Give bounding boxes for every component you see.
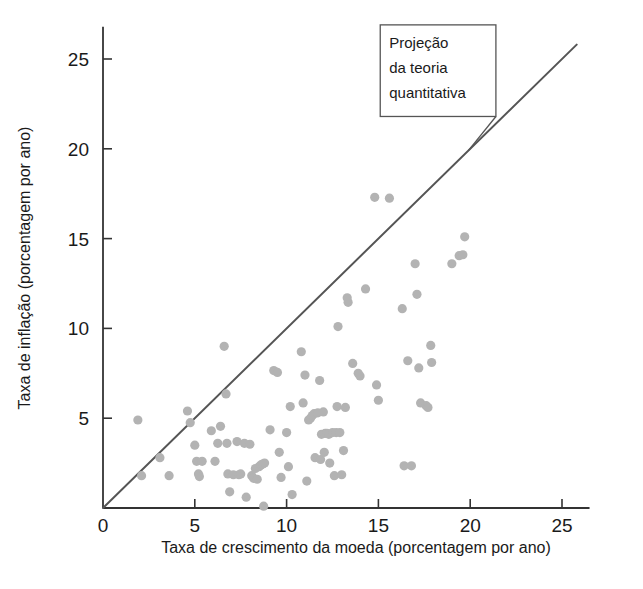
data-point <box>253 475 262 484</box>
x-tick-label: 10 <box>276 515 297 536</box>
data-point <box>207 426 216 435</box>
data-point <box>260 459 269 468</box>
data-point <box>344 298 353 307</box>
data-point <box>198 457 207 466</box>
y-tick-label: 5 <box>78 408 89 429</box>
data-point <box>273 368 282 377</box>
data-point <box>133 415 142 424</box>
data-point <box>458 250 467 259</box>
data-point <box>282 428 291 437</box>
data-point <box>183 406 192 415</box>
y-axis-title: Taxa de inflação (porcentagem por ano) <box>16 127 33 410</box>
data-point <box>275 448 284 457</box>
data-point <box>325 459 334 468</box>
quantity-theory-reference-line <box>103 45 577 508</box>
annotation-line: da teoria <box>389 59 448 76</box>
data-point <box>385 194 394 203</box>
data-point <box>339 446 348 455</box>
data-point <box>165 471 174 480</box>
data-point <box>222 439 231 448</box>
data-point <box>460 232 469 241</box>
y-tick-label: 15 <box>68 229 89 250</box>
data-point <box>221 389 230 398</box>
data-point <box>407 461 416 470</box>
data-point <box>332 402 341 411</box>
data-point <box>286 402 295 411</box>
data-point <box>302 476 311 485</box>
data-point <box>284 462 293 471</box>
annotation-callout: Projeçãoda teoriaquantitativa <box>380 25 496 151</box>
data-point <box>361 284 370 293</box>
data-point <box>341 403 350 412</box>
data-point <box>297 347 306 356</box>
data-point <box>447 259 456 268</box>
y-tick-label: 20 <box>68 139 89 160</box>
x-axis-title: Taxa de crescimento da moeda (porcentage… <box>161 539 551 556</box>
data-point <box>225 487 234 496</box>
x-tick-label: 5 <box>190 515 201 536</box>
data-point <box>137 471 146 480</box>
x-tick-label: 0 <box>98 515 109 536</box>
data-point <box>245 440 254 449</box>
data-point <box>155 453 164 462</box>
data-point <box>216 422 225 431</box>
data-point <box>236 469 245 478</box>
data-point <box>288 490 297 499</box>
data-point <box>213 439 222 448</box>
data-point <box>423 403 432 412</box>
annotation-line: quantitativa <box>389 84 466 101</box>
data-point <box>412 290 421 299</box>
data-point <box>348 359 357 368</box>
data-point <box>242 493 251 502</box>
data-point <box>411 259 420 268</box>
data-point <box>220 342 229 351</box>
reference-line-45deg <box>103 45 577 508</box>
data-point <box>335 428 344 437</box>
scatter-plot: 0510152025510152025 Projeçãoda teoriaqua… <box>0 0 643 589</box>
data-point <box>374 396 383 405</box>
data-point <box>195 472 204 481</box>
data-point <box>427 358 436 367</box>
data-point <box>370 193 379 202</box>
x-tick-label: 20 <box>460 515 481 536</box>
data-point <box>276 473 285 482</box>
data-point <box>265 425 274 434</box>
data-point <box>355 371 364 380</box>
data-point <box>403 356 412 365</box>
data-point <box>259 502 268 511</box>
data-point <box>210 457 219 466</box>
annotation-line: Projeção <box>389 34 448 51</box>
data-point <box>320 448 329 457</box>
scatter-points <box>133 193 469 511</box>
x-tick-label: 15 <box>368 515 389 536</box>
data-point <box>186 418 195 427</box>
data-point <box>319 407 328 416</box>
data-point <box>333 322 342 331</box>
y-tick-label: 25 <box>68 49 89 70</box>
chart-figure: 0510152025510152025 Projeçãoda teoriaqua… <box>0 0 643 589</box>
data-point <box>414 363 423 372</box>
data-point <box>372 380 381 389</box>
x-tick-label: 25 <box>551 515 572 536</box>
data-point <box>300 371 309 380</box>
data-point <box>190 441 199 450</box>
annotation-leader-line <box>468 116 496 150</box>
data-point <box>337 470 346 479</box>
y-tick-label: 10 <box>68 318 89 339</box>
data-point <box>426 341 435 350</box>
data-point <box>299 398 308 407</box>
data-point <box>315 376 324 385</box>
data-point <box>398 304 407 313</box>
